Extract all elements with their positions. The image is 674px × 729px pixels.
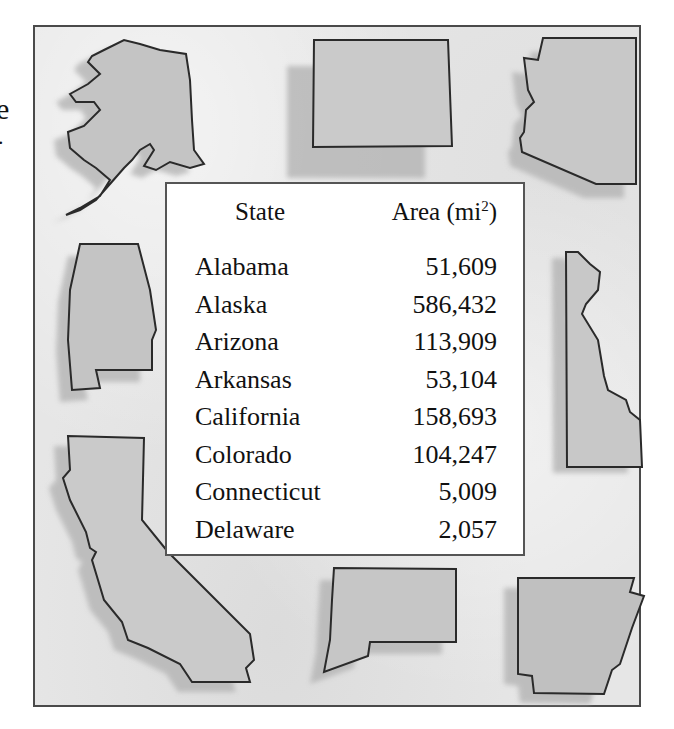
state-area: 51,609 bbox=[426, 248, 498, 286]
state-name: Arizona bbox=[195, 323, 279, 361]
state-name: Delaware bbox=[195, 511, 295, 549]
table-row: Colorado104,247 bbox=[195, 436, 497, 474]
delaware-shape-icon bbox=[552, 252, 642, 473]
area-header-superscript: 2 bbox=[481, 198, 489, 214]
state-area: 158,693 bbox=[413, 398, 498, 436]
alabama-shape-icon bbox=[56, 244, 156, 402]
area-header-close: ) bbox=[489, 198, 497, 225]
state-area-table: State Area (mi2) Alabama51,609 Alaska586… bbox=[165, 182, 525, 556]
table-body: Alabama51,609 Alaska586,432 Arizona113,9… bbox=[195, 248, 497, 548]
table-row: Delaware2,057 bbox=[195, 511, 497, 549]
colorado-shape-icon bbox=[287, 40, 452, 178]
state-name: Alabama bbox=[195, 248, 289, 286]
state-area: 5,009 bbox=[439, 473, 498, 511]
column-header-area: Area (mi2) bbox=[392, 198, 497, 226]
state-name: Arkansas bbox=[195, 361, 292, 399]
table-row: Alaska586,432 bbox=[195, 286, 497, 324]
state-area: 104,247 bbox=[413, 436, 498, 474]
state-area: 586,432 bbox=[413, 286, 498, 324]
column-header-state: State bbox=[235, 198, 285, 226]
table-row: Alabama51,609 bbox=[195, 248, 497, 286]
state-area: 53,104 bbox=[426, 361, 498, 399]
arizona-shape-icon bbox=[508, 38, 636, 198]
table-row: Connecticut5,009 bbox=[195, 473, 497, 511]
state-area: 2,057 bbox=[439, 511, 498, 549]
area-header-text: Area (mi bbox=[392, 198, 482, 225]
arkansas-shape-icon bbox=[504, 578, 644, 704]
table-row: Arkansas53,104 bbox=[195, 361, 497, 399]
connecticut-shape-icon bbox=[310, 568, 456, 684]
state-name: Alaska bbox=[195, 286, 267, 324]
state-area: 113,909 bbox=[413, 323, 497, 361]
state-name: Colorado bbox=[195, 436, 292, 474]
state-name: California bbox=[195, 398, 300, 436]
table-row: Arizona113,909 bbox=[195, 323, 497, 361]
table-row: California158,693 bbox=[195, 398, 497, 436]
state-name: Connecticut bbox=[195, 473, 321, 511]
